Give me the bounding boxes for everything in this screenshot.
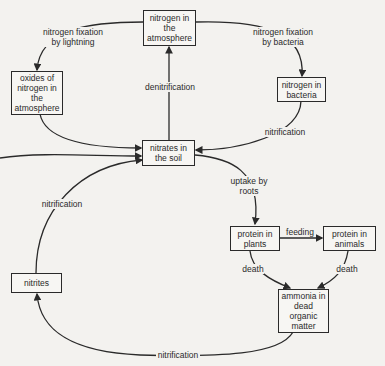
edge-label-feeding: feeding (285, 227, 315, 237)
edge-label-nitrification-bacteria: nitrification (263, 127, 307, 137)
node-nitrates: nitrates in the soil (142, 140, 195, 166)
node-animals: protein in animals (323, 226, 376, 251)
edge-label-lightning: nitrogen fixation by lightning (38, 27, 108, 47)
node-ammonia: ammonia in dead organic matter (278, 289, 329, 333)
edge-label-nitrification-nitrites: nitrification (40, 199, 84, 209)
edge-label-uptake: uptake by roots (229, 176, 269, 196)
edge-label-denitrification: denitrification (142, 82, 198, 92)
node-oxides: oxides of nitrogen in the atmosphere (11, 71, 63, 115)
edge-label-death-plants: death (242, 264, 264, 274)
edge-label-nitrification-ammonia: nitrification (156, 350, 200, 360)
edge-label-fix-bacteria: nitrogen fixation by bacteria (250, 27, 316, 47)
node-atmosphere: nitrogen in the atmosphere (143, 10, 196, 46)
node-nitrites: nitrites (11, 273, 62, 293)
node-bacteria: nitrogen in bacteria (277, 77, 326, 102)
edge-label-death-animals: death (335, 264, 359, 274)
node-plants: protein in plants (230, 226, 280, 251)
